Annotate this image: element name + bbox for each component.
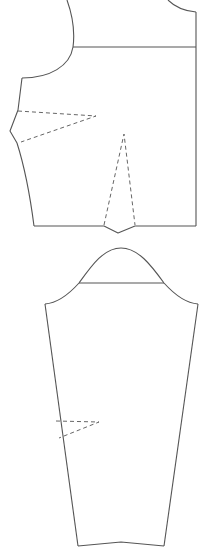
bodice-armhole-curve [22, 0, 74, 78]
pattern-drawing [0, 0, 205, 559]
bust-dart [18, 111, 96, 142]
pattern-canvas [0, 0, 205, 559]
sleeve-cap-curve [45, 248, 198, 304]
bodice-piece [10, 0, 196, 233]
sleeve-piece [45, 248, 198, 546]
sleeve-hem [78, 542, 164, 546]
bodice-neckline-curve [168, 0, 196, 12]
waist-dart [104, 134, 135, 225]
sleeve-left-seam [45, 304, 78, 546]
bodice-waist-line [34, 226, 196, 233]
sleeve-right-seam [164, 304, 198, 546]
bodice-side-seam [10, 78, 34, 226]
